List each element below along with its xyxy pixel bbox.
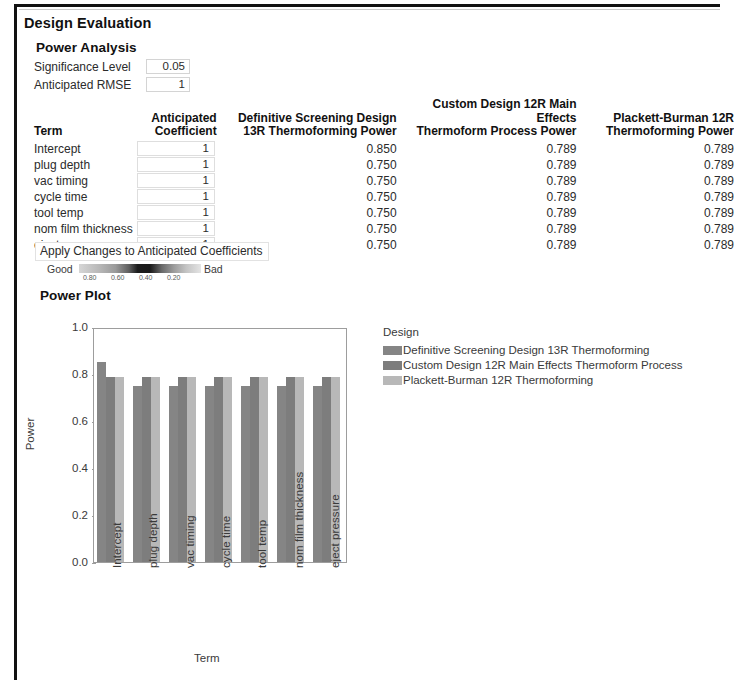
- chart-legend-label: Plackett-Burman 12R Thermoforming: [403, 373, 593, 387]
- x-axis-tick-slot: tool temp: [241, 566, 271, 666]
- x-axis-tick-slot: eject pressure: [314, 566, 344, 666]
- column-header-term: Term: [34, 98, 135, 141]
- chart-legend-entry[interactable]: Definitive Screening Design 13R Thermofo…: [383, 343, 703, 357]
- significance-level-input[interactable]: [146, 59, 190, 74]
- chart-legend-label: Definitive Screening Design 13R Thermofo…: [403, 343, 650, 357]
- bar[interactable]: [169, 386, 178, 562]
- table-row: vac timing0.7500.7890.789: [34, 173, 734, 189]
- bar[interactable]: [97, 362, 106, 562]
- cell-anticipated-coefficient: [135, 173, 217, 189]
- cell-term: tool temp: [34, 205, 135, 221]
- chart-legend-label: Custom Design 12R Main Effects Thermofor…: [403, 358, 683, 372]
- x-axis-tick-slot: Intercept: [96, 566, 126, 666]
- cell-term: vac timing: [34, 173, 135, 189]
- table-row: cycle time0.7500.7890.789: [34, 189, 734, 205]
- x-axis-tick-label: eject pressure: [329, 494, 341, 568]
- x-axis-tick-label: vac timing: [184, 515, 196, 568]
- cell-term: nom film thickness: [34, 221, 135, 237]
- color-legend-good-label: Good: [47, 263, 73, 275]
- bar[interactable]: [205, 386, 214, 562]
- y-axis-tick-label: 0.4: [62, 462, 88, 474]
- cell-power-definitive-screening: 0.750: [217, 205, 397, 221]
- table-row: nom film thickness0.7500.7890.789: [34, 221, 734, 237]
- cell-anticipated-coefficient: [135, 141, 217, 157]
- cell-power-definitive-screening: 0.750: [217, 157, 397, 173]
- chart-legend-swatch: [383, 346, 402, 355]
- cell-power-definitive-screening: 0.850: [217, 141, 397, 157]
- cell-power-custom-design: 0.789: [397, 141, 577, 157]
- power-analysis-table: Term Anticipated Coefficient Definitive …: [34, 98, 734, 253]
- y-axis-tick-label: 0.2: [62, 509, 88, 521]
- table-header-row: Term Anticipated Coefficient Definitive …: [34, 98, 734, 141]
- power-plot-chart: Power 0.00.20.40.60.81.0 Interceptplug d…: [22, 310, 720, 680]
- x-axis-tick-label: Intercept: [111, 522, 123, 568]
- column-header-power-plackett-burman: Plackett-Burman 12R Thermoforming Power: [577, 98, 734, 141]
- window-content: Design Evaluation Power Analysis Signifi…: [22, 10, 720, 680]
- power-plot-heading: Power Plot: [40, 288, 111, 303]
- chart-legend: Design Definitive Screening Design 13R T…: [383, 326, 703, 388]
- y-axis-tick-label: 0.0: [62, 556, 88, 568]
- x-axis-tick-labels: Interceptplug depthvac timingcycle timet…: [93, 566, 347, 666]
- color-legend-tick: 0.60: [111, 274, 124, 281]
- cell-power-custom-design: 0.789: [397, 205, 577, 221]
- significance-level-row: Significance Level: [34, 58, 284, 75]
- y-axis-tick-label: 0.8: [62, 368, 88, 380]
- cell-power-definitive-screening: 0.750: [217, 221, 397, 237]
- cell-power-plackett-burman: 0.789: [577, 205, 734, 221]
- chart-legend-swatch: [383, 376, 402, 385]
- cell-power-plackett-burman: 0.789: [577, 157, 734, 173]
- cell-anticipated-coefficient: [135, 221, 217, 237]
- power-analysis-parameters: Significance Level Anticipated RMSE: [34, 58, 284, 94]
- y-axis-title: Power: [24, 418, 36, 451]
- cell-power-definitive-screening: 0.750: [217, 173, 397, 189]
- anticipated-coefficient-input[interactable]: [137, 141, 215, 156]
- bar[interactable]: [277, 386, 286, 562]
- anticipated-coefficient-input[interactable]: [137, 221, 215, 236]
- anticipated-coefficient-input[interactable]: [137, 173, 215, 188]
- chart-legend-entry[interactable]: Plackett-Burman 12R Thermoforming: [383, 373, 703, 387]
- table-row: tool temp0.7500.7890.789: [34, 205, 734, 221]
- cell-term: Intercept: [34, 141, 135, 157]
- column-header-power2-line2: Thermoform Process Power: [397, 125, 577, 139]
- x-axis-tick-slot: plug depth: [132, 566, 162, 666]
- column-header-power1-line2: 13R Thermoforming Power: [217, 125, 397, 139]
- x-axis-tick-slot: cycle time: [205, 566, 235, 666]
- column-header-power1-line1: Definitive Screening Design: [217, 112, 397, 126]
- x-axis-tick-label: plug depth: [147, 513, 159, 568]
- anticipated-coefficient-input[interactable]: [137, 205, 215, 220]
- window-left-border: [14, 4, 17, 680]
- column-header-power-definitive-screening: Definitive Screening Design 13R Thermofo…: [217, 98, 397, 141]
- cell-power-custom-design: 0.789: [397, 189, 577, 205]
- cell-anticipated-coefficient: [135, 205, 217, 221]
- color-legend-tick: 0.80: [83, 274, 96, 281]
- anticipated-coefficient-input[interactable]: [137, 189, 215, 204]
- cell-power-custom-design: 0.789: [397, 173, 577, 189]
- anticipated-rmse-row: Anticipated RMSE: [34, 76, 284, 93]
- bar[interactable]: [241, 386, 250, 562]
- column-header-anticipated-coefficient: Anticipated Coefficient: [135, 98, 217, 141]
- cell-power-plackett-burman: 0.789: [577, 189, 734, 205]
- x-axis-tick-label: cycle time: [220, 516, 232, 568]
- chart-legend-entries: Definitive Screening Design 13R Thermofo…: [383, 343, 703, 387]
- cell-power-custom-design: 0.789: [397, 157, 577, 173]
- anticipated-coefficient-input[interactable]: [137, 157, 215, 172]
- y-axis-ticks: 0.00.20.40.60.81.0: [58, 328, 88, 563]
- color-legend-tick: 0.20: [167, 274, 180, 281]
- cell-term: plug depth: [34, 157, 135, 173]
- x-axis-tick-label: nom film thickness: [293, 472, 305, 568]
- significance-level-label: Significance Level: [34, 60, 146, 74]
- chart-legend-entry[interactable]: Custom Design 12R Main Effects Thermofor…: [383, 358, 703, 372]
- cell-power-plackett-burman: 0.789: [577, 237, 734, 253]
- cell-anticipated-coefficient: [135, 157, 217, 173]
- column-header-power3-line2: Thermoforming Power: [577, 125, 734, 139]
- apply-changes-button[interactable]: Apply Changes to Anticipated Coefficient…: [35, 242, 269, 261]
- bar[interactable]: [313, 386, 322, 562]
- bar[interactable]: [133, 386, 142, 562]
- page-title: Design Evaluation: [24, 15, 720, 31]
- anticipated-rmse-input[interactable]: [146, 77, 190, 92]
- cell-power-plackett-burman: 0.789: [577, 141, 734, 157]
- x-axis-tick-slot: nom film thickness: [278, 566, 308, 666]
- cell-power-plackett-burman: 0.789: [577, 173, 734, 189]
- chart-legend-title: Design: [383, 326, 703, 338]
